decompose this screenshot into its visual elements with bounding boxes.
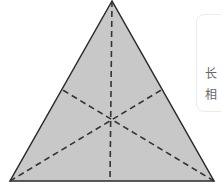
- card-text-line-1: 长: [205, 67, 217, 81]
- side-card: 长 相: [196, 14, 221, 112]
- triangle-diagram: [0, 0, 221, 187]
- card-text-line-2: 相: [205, 88, 217, 102]
- triangle: [10, 1, 214, 181]
